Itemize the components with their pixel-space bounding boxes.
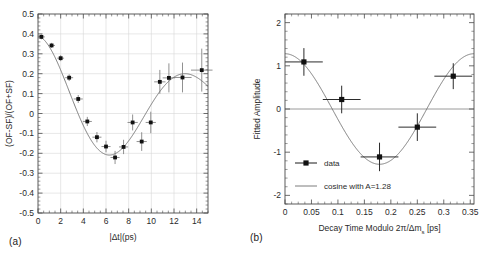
data-marker bbox=[131, 121, 135, 125]
y-tick-label: 0 bbox=[29, 109, 34, 119]
data-marker bbox=[377, 154, 382, 159]
x-axis-title: Decay Time Modulo 2π/Δms [ps] bbox=[318, 223, 440, 235]
data-marker bbox=[140, 140, 144, 144]
data-point bbox=[361, 143, 399, 172]
y-tick-label: 0.2 bbox=[22, 69, 34, 79]
data-point bbox=[101, 141, 110, 153]
data-marker bbox=[104, 145, 108, 149]
x-axis-title: |Δt|(ps) bbox=[109, 232, 136, 242]
y-tick-label: 0 bbox=[276, 104, 281, 114]
data-series-points bbox=[285, 48, 472, 171]
x-tick-label: 4 bbox=[81, 216, 86, 226]
data-point bbox=[57, 55, 64, 61]
y-tick-label: -2 bbox=[273, 190, 281, 200]
figure-container: 02468101214-0.5-0.4-0.3-0.2-0.100.10.20.… bbox=[0, 0, 500, 258]
x-tick-label: 12 bbox=[169, 216, 179, 226]
grid-lines bbox=[38, 14, 208, 213]
legend-label-cosine: cosine with A=1.28 bbox=[324, 182, 391, 191]
data-point bbox=[111, 151, 120, 164]
data-point bbox=[191, 49, 213, 92]
data-marker bbox=[415, 125, 420, 130]
data-marker bbox=[76, 97, 80, 101]
data-point bbox=[128, 114, 138, 130]
x-tick-label: 8 bbox=[126, 216, 131, 226]
panel-b-label: (b) bbox=[250, 232, 263, 243]
legend-marker-square bbox=[303, 160, 308, 165]
data-point bbox=[65, 74, 73, 81]
data-point bbox=[119, 140, 128, 154]
tick-labels: 02468101214-0.5-0.4-0.3-0.2-0.100.10.20.… bbox=[19, 9, 201, 226]
x-tick-label: 2 bbox=[58, 216, 63, 226]
data-marker bbox=[339, 97, 344, 102]
data-point bbox=[146, 112, 156, 133]
panel-a-chart: 02468101214-0.5-0.4-0.3-0.2-0.100.10.20.… bbox=[0, 0, 250, 258]
panel-b-svg: 00.050.10.150.20.250.30.35-2-1012Decay T… bbox=[250, 0, 500, 258]
data-point bbox=[74, 95, 83, 103]
data-marker bbox=[122, 145, 126, 149]
y-tick-label: -0.5 bbox=[19, 208, 34, 218]
legend-label-data: data bbox=[324, 159, 340, 168]
data-point bbox=[173, 63, 191, 93]
panel-b-plot-area: 00.050.10.150.20.250.30.35-2-1012Decay T… bbox=[252, 14, 479, 235]
y-tick-label: -1 bbox=[273, 147, 281, 157]
data-point bbox=[38, 34, 45, 39]
panel-a-svg: 02468101214-0.5-0.4-0.3-0.2-0.100.10.20.… bbox=[0, 0, 250, 258]
data-marker bbox=[113, 156, 117, 160]
data-marker bbox=[50, 44, 54, 48]
data-marker bbox=[67, 76, 71, 80]
panel-a-plot-area: 02468101214-0.5-0.4-0.3-0.2-0.100.10.20.… bbox=[4, 9, 213, 242]
data-point bbox=[163, 63, 175, 92]
y-tick-label: -0.1 bbox=[19, 128, 34, 138]
x-tick-label: 14 bbox=[192, 216, 202, 226]
x-tick-label: 0.15 bbox=[356, 207, 373, 217]
y-tick-label: -0.3 bbox=[19, 168, 34, 178]
x-tick-label: 0.1 bbox=[332, 207, 344, 217]
data-marker bbox=[95, 135, 99, 139]
x-tick-label: 6 bbox=[104, 216, 109, 226]
data-marker bbox=[59, 56, 63, 60]
y-tick-label: 1 bbox=[276, 61, 281, 71]
y-tick-label: 0.1 bbox=[22, 89, 34, 99]
x-tick-label: 0.35 bbox=[462, 207, 479, 217]
panel-a-label: (a) bbox=[9, 236, 22, 247]
legend-entry-cosine: cosine with A=1.28 bbox=[295, 182, 391, 191]
y-tick-label: -0.4 bbox=[19, 188, 34, 198]
data-marker bbox=[451, 74, 456, 79]
y-tick-label: 0.4 bbox=[22, 29, 34, 39]
data-marker bbox=[181, 76, 185, 80]
y-tick-label: -0.2 bbox=[19, 148, 34, 158]
data-point bbox=[83, 117, 92, 126]
legend-entry-data: data bbox=[295, 159, 340, 168]
y-tick-label: 0.3 bbox=[22, 49, 34, 59]
data-marker bbox=[85, 120, 89, 124]
y-tick-label: 2 bbox=[276, 18, 281, 28]
x-tick-label: 0.05 bbox=[303, 207, 320, 217]
x-tick-label: 0.2 bbox=[385, 207, 397, 217]
data-marker bbox=[167, 76, 171, 80]
data-marker bbox=[158, 80, 162, 84]
data-marker bbox=[301, 59, 306, 64]
x-tick-label: 0 bbox=[36, 216, 41, 226]
data-marker bbox=[149, 121, 153, 125]
y-axis-title: Fitted Amplitude bbox=[252, 78, 262, 139]
y-tick-label: 0.5 bbox=[22, 9, 34, 19]
y-axis-title: (OF-SF)/(OF+SF) bbox=[4, 80, 14, 147]
data-marker bbox=[200, 68, 204, 72]
panel-b-chart: 00.050.10.150.20.250.30.35-2-1012Decay T… bbox=[250, 0, 500, 258]
data-point bbox=[137, 132, 147, 151]
data-point bbox=[398, 113, 436, 141]
x-tick-label: 0.25 bbox=[409, 207, 426, 217]
data-point bbox=[285, 48, 323, 76]
x-tick-label: 0.3 bbox=[438, 207, 450, 217]
x-tick-label: 0 bbox=[283, 207, 288, 217]
data-marker bbox=[40, 35, 44, 39]
x-tick-label: 10 bbox=[147, 216, 157, 226]
